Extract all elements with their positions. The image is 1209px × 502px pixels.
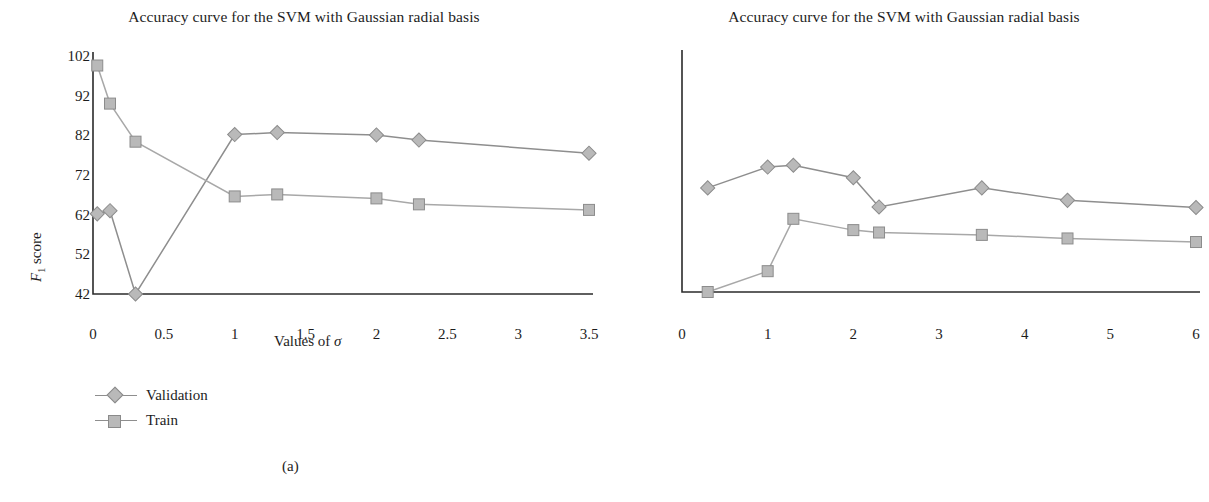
x-axis-tick-label: 6 — [1192, 326, 1200, 343]
series-line-validation — [97, 133, 589, 294]
data-point-square — [848, 225, 859, 236]
data-point-diamond — [761, 160, 775, 174]
data-point-square — [371, 193, 382, 204]
chart-canvas-b — [605, 34, 1209, 324]
x-axis-tick-label: 2 — [373, 326, 381, 343]
chart-canvas-a — [0, 34, 604, 324]
data-point-diamond — [128, 287, 142, 301]
panel-caption-a: (a) — [282, 458, 299, 475]
legend-item-validation: Validation — [95, 383, 208, 408]
series-line-train — [708, 219, 1196, 292]
data-point-square — [92, 60, 103, 71]
data-point-square — [874, 227, 885, 238]
data-point-square — [788, 213, 799, 224]
data-point-square — [130, 136, 141, 147]
data-point-square — [272, 189, 283, 200]
x-axis-tick-label: 1 — [764, 326, 772, 343]
data-point-square — [413, 199, 424, 210]
series-line-train — [97, 66, 589, 210]
legend-label-validation: Validation — [146, 387, 208, 404]
x-axis-tick-label: 2.5 — [438, 326, 457, 343]
data-point-square — [762, 266, 773, 277]
data-point-diamond — [369, 128, 383, 142]
plot-area-a: F1 score 425262728292102 00.511.522.533.… — [0, 34, 604, 324]
data-point-square — [1062, 233, 1073, 244]
data-point-square — [105, 98, 116, 109]
data-point-diamond — [975, 181, 989, 195]
x-axis-tick-label: 2 — [850, 326, 858, 343]
data-point-diamond — [582, 146, 596, 160]
x-axis-tick-label: 0 — [89, 326, 97, 343]
data-point-diamond — [412, 133, 426, 147]
sigma-symbol: σ — [334, 333, 341, 349]
x-axis-tick-label: 1 — [231, 326, 239, 343]
x-axis-tick-label: 0.5 — [154, 326, 173, 343]
data-point-square — [976, 229, 987, 240]
chart-title-b: Accuracy curve for the SVM with Gaussian… — [605, 8, 1209, 26]
figure-panel-b: Accuracy curve for the SVM with Gaussian… — [605, 0, 1209, 502]
legend-label-train: Train — [146, 412, 178, 429]
x-axis-tick-label: 5 — [1107, 326, 1115, 343]
series-line-validation — [708, 165, 1196, 207]
square-marker-icon — [95, 414, 137, 428]
data-point-diamond — [103, 204, 117, 218]
diamond-marker-icon — [95, 389, 137, 403]
axis-spines — [93, 52, 593, 294]
legend-item-train: Train — [95, 408, 208, 433]
data-point-diamond — [1060, 193, 1074, 207]
chart-title-a: Accuracy curve for the SVM with Gaussian… — [0, 8, 604, 26]
x-axis-tick-label: 4 — [1021, 326, 1029, 343]
x-axis-tick-label: 3 — [935, 326, 943, 343]
axis-spines — [682, 50, 1200, 292]
x-axis-tick-label: 0 — [678, 326, 686, 343]
figure-panel-a: Accuracy curve for the SVM with Gaussian… — [0, 0, 604, 502]
data-point-square — [702, 287, 713, 298]
data-point-square — [1191, 237, 1202, 248]
legend-a: Validation Train — [95, 383, 208, 433]
x-axis-ticks-b: 0123456 — [605, 326, 1209, 350]
x-axis-label-a: Values of σ — [274, 333, 341, 350]
plot-area-b: F1 score 6166717681869196101 0123456 — [605, 34, 1209, 324]
data-point-diamond — [270, 125, 284, 139]
data-point-diamond — [1189, 200, 1203, 214]
data-point-diamond — [786, 158, 800, 172]
data-point-diamond — [701, 181, 715, 195]
data-point-square — [584, 204, 595, 215]
data-point-square — [229, 191, 240, 202]
x-axis-tick-label: 3.5 — [580, 326, 599, 343]
data-point-diamond — [228, 127, 242, 141]
x-axis-tick-label: 3 — [514, 326, 522, 343]
